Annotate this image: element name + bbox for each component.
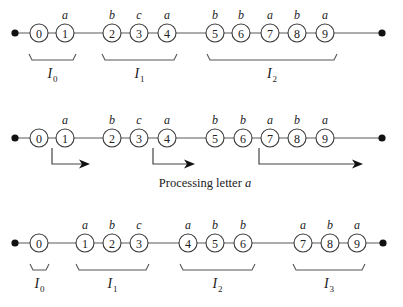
- position-node: 9a: [348, 218, 366, 252]
- interval-label: I3: [323, 276, 335, 294]
- end-dot-icon: [378, 134, 385, 141]
- node-letter: b: [109, 8, 115, 22]
- interval-bracket: I1: [102, 54, 177, 84]
- node-letter: b: [294, 113, 300, 127]
- position-node: 3c: [130, 8, 148, 42]
- bracket-shape: [102, 54, 177, 60]
- bracket-shape: [29, 54, 76, 60]
- shift-arrow-icon: [153, 148, 195, 169]
- position-node: 1a: [56, 8, 74, 42]
- position-node: 0: [30, 24, 48, 42]
- bracket-shape: [30, 264, 49, 270]
- node-letter: b: [240, 113, 246, 127]
- end-dot-icon: [378, 29, 385, 36]
- position-node: 0: [30, 129, 48, 147]
- position-node: 8b: [288, 8, 306, 42]
- interval-label: I0: [33, 276, 45, 294]
- node-letter: b: [109, 218, 115, 232]
- node-letter: b: [212, 8, 218, 22]
- position-node: 8b: [288, 113, 306, 147]
- bracket-shape: [293, 264, 365, 270]
- interval-partition-diagram: 01a2b3c4a5b6b7a8b9aI0I1I201a2b3c4a5b6b7a…: [0, 0, 403, 307]
- interval-label: I1: [106, 276, 117, 294]
- node-letter: c: [136, 113, 142, 127]
- position-node: 2b: [103, 113, 121, 147]
- node-index: 8: [327, 237, 333, 251]
- interval-bracket: I2: [207, 54, 337, 84]
- interval-label: I2: [266, 66, 277, 84]
- node-index: 2: [109, 237, 115, 251]
- node-index: 5: [212, 237, 218, 251]
- node-letter: a: [300, 218, 306, 232]
- position-node: 7a: [294, 218, 312, 252]
- bracket-shape: [180, 264, 255, 270]
- position-node: 9a: [316, 113, 334, 147]
- position-node: 2b: [103, 8, 121, 42]
- node-letter: a: [62, 8, 68, 22]
- node-index: 1: [62, 27, 68, 41]
- node-index: 8: [294, 132, 300, 146]
- node-index: 3: [136, 132, 142, 146]
- node-index: 1: [62, 132, 68, 146]
- processing-caption: Processing letter a: [159, 176, 251, 190]
- node-index: 7: [267, 27, 273, 41]
- node-letter: b: [212, 113, 218, 127]
- node-index: 4: [164, 27, 170, 41]
- node-index: 8: [294, 27, 300, 41]
- node-letter: a: [354, 218, 360, 232]
- start-dot-icon: [11, 29, 18, 36]
- interval-bracket: I0: [30, 264, 49, 294]
- interval-bracket: I2: [180, 264, 255, 294]
- node-index: 0: [36, 27, 42, 41]
- node-letter: b: [240, 218, 246, 232]
- start-dot-icon: [11, 134, 18, 141]
- position-node: 1a: [76, 218, 94, 252]
- node-letter: a: [322, 113, 328, 127]
- position-node: 5b: [206, 8, 224, 42]
- node-index: 4: [164, 132, 170, 146]
- node-index: 6: [240, 237, 246, 251]
- interval-label: I0: [46, 66, 58, 84]
- position-node: 6b: [234, 218, 252, 252]
- node-letter: a: [164, 8, 170, 22]
- node-index: 0: [36, 237, 42, 251]
- position-node: 4a: [179, 218, 197, 252]
- node-letter: a: [185, 218, 191, 232]
- interval-bracket: I1: [76, 264, 149, 294]
- node-letter: b: [327, 218, 333, 232]
- node-letter: a: [62, 113, 68, 127]
- position-node: 5b: [206, 113, 224, 147]
- node-index: 3: [136, 237, 142, 251]
- bracket-shape: [76, 264, 149, 270]
- position-node: 3c: [130, 218, 148, 252]
- position-node: 3c: [130, 113, 148, 147]
- shift-arrow-icon: [52, 148, 90, 169]
- position-node: 4a: [158, 8, 176, 42]
- position-node: 2b: [103, 218, 121, 252]
- row-3: 01a2b3c4a5b6b7a8b9aI0I1I2I3: [11, 218, 386, 294]
- bracket-shape: [207, 54, 337, 60]
- node-index: 1: [82, 237, 88, 251]
- position-node: 7a: [261, 113, 279, 147]
- node-index: 2: [109, 132, 115, 146]
- node-index: 6: [238, 27, 244, 41]
- node-index: 6: [240, 132, 246, 146]
- node-index: 9: [354, 237, 360, 251]
- node-letter: b: [109, 113, 115, 127]
- node-letter: a: [267, 113, 273, 127]
- node-index: 5: [212, 27, 218, 41]
- row-2: 01a2b3c4a5b6b7a8b9aProcessing letter a: [11, 113, 385, 190]
- node-letter: c: [136, 8, 142, 22]
- shift-arrow-icon: [259, 148, 363, 169]
- node-letter: b: [212, 218, 218, 232]
- node-index: 2: [109, 27, 115, 41]
- position-node: 5b: [206, 218, 224, 252]
- node-letter: a: [267, 8, 273, 22]
- node-index: 5: [212, 132, 218, 146]
- interval-bracket: I0: [29, 54, 76, 84]
- node-index: 7: [300, 237, 306, 251]
- start-dot-icon: [11, 239, 18, 246]
- row-1: 01a2b3c4a5b6b7a8b9aI0I1I2: [11, 8, 385, 84]
- position-node: 1a: [56, 113, 74, 147]
- position-node: 0: [30, 234, 48, 252]
